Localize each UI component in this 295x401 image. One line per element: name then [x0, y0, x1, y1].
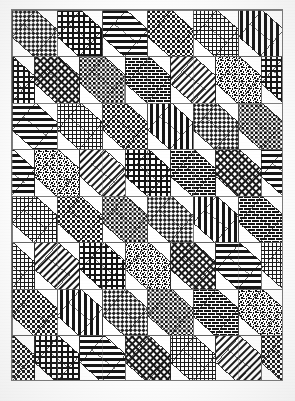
- tessellation-plate: [11, 9, 283, 381]
- page-canvas: [0, 0, 295, 401]
- tessellation-svg: [12, 10, 282, 380]
